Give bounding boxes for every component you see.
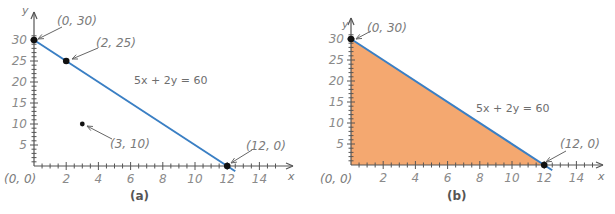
chart-a-svg: 246810121451015202530 y x (0, 0) (0, 30)… — [0, 0, 307, 214]
equation-label: 5x + 2y = 60 — [476, 102, 549, 115]
x-tick-label: 12 — [537, 171, 552, 185]
y-tick-label: 25 — [329, 53, 344, 67]
y-tick-label: 10 — [329, 116, 345, 130]
axes: 246810121451015202530 — [12, 12, 293, 186]
x-tick-label: 8 — [476, 171, 484, 185]
x-tick-label: 6 — [444, 171, 452, 185]
x-tick-label: 4 — [95, 172, 103, 186]
chart-panel-a: 246810121451015202530 y x (0, 0) (0, 30)… — [0, 0, 307, 214]
y-tick-label: 30 — [12, 33, 28, 47]
origin-label: (0, 0) — [320, 172, 352, 186]
annotation-arrow — [87, 126, 112, 139]
annotation-arrow — [546, 151, 566, 162]
x-axis-label: x — [287, 170, 295, 183]
x-tick-label: 6 — [127, 172, 135, 186]
y-tick-label: 20 — [329, 74, 345, 88]
x-tick-label: 14 — [252, 172, 267, 186]
data-point — [224, 163, 231, 170]
x-tick-label: 10 — [187, 172, 203, 186]
y-tick-label: 10 — [12, 117, 28, 131]
caption-b: (b) — [447, 189, 467, 203]
y-axis-label: y — [21, 4, 29, 17]
y-tick-label: 20 — [12, 75, 28, 89]
x-tick-label: 2 — [379, 171, 387, 185]
x-tick-label: 8 — [159, 172, 167, 186]
y-tick-label: 15 — [12, 96, 27, 110]
data-point — [63, 58, 70, 65]
chart-panel-b: 246810121451015202530 y x (0, 0) (0, 30)… — [308, 0, 615, 214]
arrowhead-icon — [231, 158, 237, 163]
y-tick-label: 5 — [19, 138, 27, 152]
x-axis-label: x — [597, 170, 605, 183]
y-tick-label: 15 — [329, 95, 344, 109]
point-label-3-10: (3, 10) — [110, 137, 150, 151]
y-axis-label: y — [341, 18, 349, 31]
point-label-0-30: (0, 30) — [367, 21, 407, 35]
data-point — [80, 122, 85, 127]
y-tick-label: 30 — [329, 32, 345, 46]
x-tick-label: 14 — [569, 171, 584, 185]
x-tick-label: 4 — [412, 171, 420, 185]
point-label-12-0: (12, 0) — [560, 137, 600, 151]
annotation-arrow — [72, 48, 98, 59]
data-point — [31, 37, 38, 44]
data-point — [348, 36, 355, 43]
annotation-arrow — [38, 27, 62, 39]
y-tick-label: 25 — [12, 54, 27, 68]
point-label-12-0: (12, 0) — [246, 139, 286, 153]
point-label-2-25: (2, 25) — [96, 36, 136, 50]
data-point — [541, 162, 548, 169]
origin-label: (0, 0) — [4, 172, 36, 186]
equation-label: 5x + 2y = 60 — [134, 74, 207, 87]
x-tick-label: 12 — [220, 172, 235, 186]
y-tick-label: 5 — [336, 137, 344, 151]
point-label-0-30: (0, 30) — [57, 14, 97, 28]
x-tick-label: 10 — [504, 171, 520, 185]
caption-a: (a) — [130, 189, 149, 203]
chart-b-svg: 246810121451015202530 y x (0, 0) (0, 30)… — [308, 0, 615, 214]
x-tick-label: 2 — [62, 172, 70, 186]
